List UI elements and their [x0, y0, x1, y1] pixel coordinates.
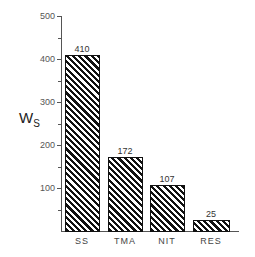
- y-tick-label: 500: [25, 11, 55, 21]
- x-category-label: RES: [193, 236, 229, 246]
- x-category-label: SS: [64, 236, 100, 246]
- y-tick-minor: [58, 81, 61, 82]
- x-category-label: NIT: [149, 236, 185, 246]
- y-tick-400: [57, 59, 61, 60]
- y-tick-200: [57, 145, 61, 146]
- y-tick-100: [57, 188, 61, 189]
- x-category-label: TMA: [107, 236, 143, 246]
- bar-tma: [108, 157, 143, 232]
- y-axis: [61, 16, 62, 232]
- y-tick-minor: [58, 210, 61, 211]
- y-tick-500: [57, 16, 61, 17]
- y-tick-minor: [58, 167, 61, 168]
- y-tick-label: 300: [25, 97, 55, 107]
- bar-res: [193, 220, 230, 232]
- bar-ss: [65, 55, 100, 232]
- bar-value-nit: 107: [149, 174, 185, 184]
- y-tick-minor: [58, 124, 61, 125]
- y-tick-label: 100: [25, 183, 55, 193]
- bar-value-ss: 410: [64, 44, 100, 54]
- y-tick-minor: [58, 38, 61, 39]
- bar-value-res: 25: [193, 209, 229, 219]
- y-tick-label: 200: [25, 140, 55, 150]
- y-axis-label: WS: [19, 109, 40, 129]
- y-tick-label: 400: [25, 54, 55, 64]
- bar-value-tma: 172: [107, 146, 143, 156]
- bar-nit: [150, 185, 185, 232]
- y-tick-300: [57, 102, 61, 103]
